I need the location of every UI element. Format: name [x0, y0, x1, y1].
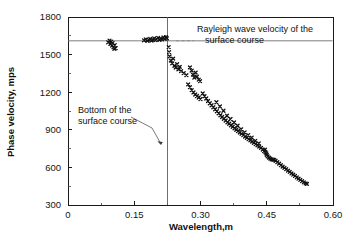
y-tick-label: 1800 [40, 11, 61, 22]
data-point [233, 121, 236, 124]
x-tick-label: 0.15 [125, 209, 144, 220]
y-axis-title: Phase velocity, mps [5, 67, 16, 157]
data-point [190, 69, 193, 72]
x-tick-label: 0.30 [191, 209, 210, 220]
annotation-leaders [131, 41, 194, 145]
data-point [168, 55, 171, 58]
x-tick-label: 0 [65, 209, 70, 220]
data-point [168, 51, 171, 54]
y-tick-label: 300 [45, 199, 61, 210]
rayleigh-annotation-line1: Rayleigh wave velocity of the [197, 24, 313, 34]
x-axis-title: Wavelength,m [169, 221, 233, 232]
data-points [107, 36, 309, 186]
data-point [226, 114, 229, 117]
phase-velocity-scatter-chart: 00.150.300.450.60300600900120015001800 W… [0, 0, 357, 239]
bottom-annotation-line1: Bottom of the [78, 105, 132, 115]
data-point [229, 118, 232, 121]
data-point [222, 109, 225, 112]
chart-figure: 00.150.300.450.60300600900120015001800 W… [0, 0, 357, 239]
bottom-leader-arrow [157, 141, 162, 145]
data-point [240, 128, 243, 131]
data-point [215, 101, 218, 104]
data-point [236, 124, 239, 127]
x-tick-label: 0.45 [258, 209, 277, 220]
bottom-annotation-line2: surface course [78, 116, 137, 126]
y-tick-label: 1500 [40, 49, 61, 60]
rayleigh-annotation-line2: surface course [205, 35, 264, 45]
x-tick-label: 0.60 [324, 209, 343, 220]
y-tick-label: 1200 [40, 87, 61, 98]
data-point [218, 105, 221, 108]
data-point [188, 66, 191, 69]
y-tick-label: 900 [45, 124, 61, 135]
y-tick-label: 600 [45, 162, 61, 173]
